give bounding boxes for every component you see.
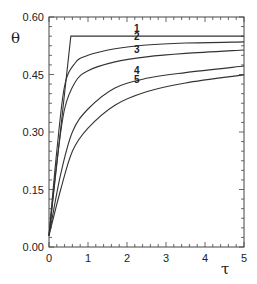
y-tick-label: 0.15: [23, 184, 44, 196]
y-tick-labels: 0.000.150.300.450.60: [23, 11, 44, 253]
x-tick-labels: 012345: [46, 252, 247, 264]
curve-1: [49, 36, 244, 235]
y-tick-label: 0.60: [23, 11, 44, 23]
curve-2: [49, 42, 244, 236]
curve-5: [49, 75, 244, 236]
curve-label-2: 2: [134, 31, 140, 42]
curves: [49, 36, 244, 235]
y-axis-label: θ: [11, 29, 20, 47]
x-tick-label: 4: [202, 252, 208, 264]
curve-label-3: 3: [134, 44, 140, 55]
x-tick-label: 5: [241, 252, 247, 264]
x-tick-label: 1: [85, 252, 91, 264]
chart: 012345 0.000.150.300.450.60 12345 θ τ: [0, 0, 257, 284]
y-tick-label: 0.45: [23, 69, 44, 81]
x-tick-label: 3: [163, 252, 169, 264]
x-tick-label: 0: [46, 252, 52, 264]
y-tick-label: 0.00: [23, 241, 44, 253]
curve-labels: 12345: [134, 23, 140, 85]
y-tick-label: 0.30: [23, 126, 44, 138]
x-axis-label: τ: [221, 260, 229, 278]
x-tick-label: 2: [124, 252, 130, 264]
curve-label-5: 5: [134, 74, 140, 85]
